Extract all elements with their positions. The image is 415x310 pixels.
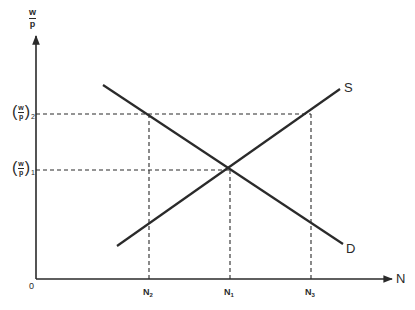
demand-label: D: [346, 242, 355, 255]
wp1-num: w: [18, 160, 23, 169]
y-axis-label-den: p: [30, 19, 36, 29]
x-level-N1-label: N1: [224, 287, 234, 298]
wp1-sub: 1: [31, 169, 35, 176]
origin-label: 0: [29, 282, 34, 291]
x-axis-label: N: [396, 272, 405, 285]
N2-sub: 2: [150, 292, 153, 298]
wp1-den: p: [19, 169, 23, 176]
y-level-wp2-label: ( w p ) 2: [12, 104, 35, 120]
N1-sub: 1: [231, 292, 234, 298]
diagram-canvas: [0, 0, 415, 310]
x-level-N3-label: N3: [305, 287, 315, 298]
wp2-num: w: [18, 104, 23, 113]
y-axis-label: w p: [29, 8, 36, 29]
x-level-N2-label: N2: [143, 287, 153, 298]
demand-curve: [103, 85, 343, 244]
supply-label: S: [344, 81, 353, 94]
N3-sub: 3: [312, 292, 315, 298]
y-axis-label-num: w: [29, 8, 36, 19]
supply-curve: [117, 89, 340, 246]
wp2-den: p: [19, 113, 23, 120]
y-level-wp1-label: ( w p ) 1: [12, 160, 35, 176]
wp2-sub: 2: [31, 113, 35, 120]
